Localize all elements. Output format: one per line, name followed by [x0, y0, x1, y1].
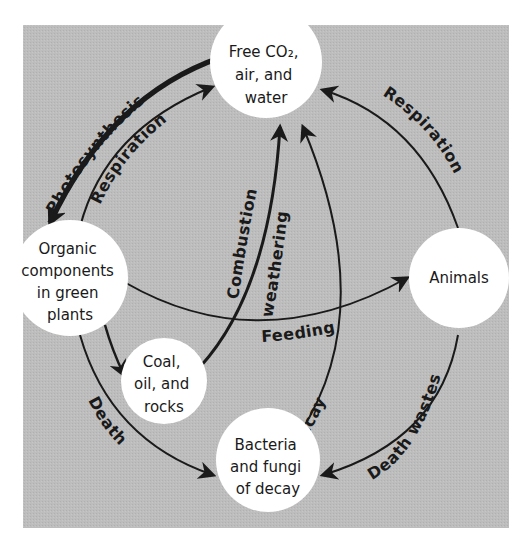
carbon-cycle-diagram: Photosynthesis Respiration Respiration C…	[0, 0, 529, 543]
node-organic-components: Organic components in green plants	[12, 220, 128, 336]
svg-text:Animals: Animals	[429, 269, 489, 287]
node-free-co2: Free CO₂, air, and water	[210, 6, 322, 118]
node-coal-oil-rocks: Coal, oil, and rocks	[121, 338, 207, 424]
node-animals: Animals	[409, 228, 509, 328]
svg-text:Bacteria and fungi: Bacteria and fungi of decay	[230, 436, 306, 498]
node-bacteria-fungi: Bacteria and fungi of decay	[216, 408, 320, 512]
